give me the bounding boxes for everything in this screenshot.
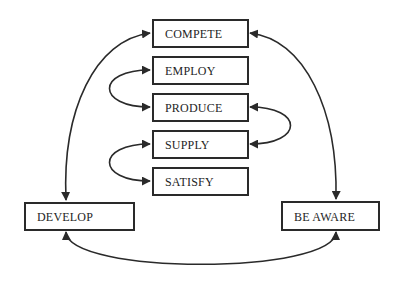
node-develop: DEVELOP — [24, 202, 135, 231]
edge-supply-satisfy — [110, 144, 151, 181]
edge-compete-be-aware — [250, 33, 336, 199]
edge-develop-be-aware — [66, 232, 336, 264]
diagram-canvas: COMPETE EMPLOY PRODUCE SUPPLY SATISFY DE… — [0, 0, 399, 282]
node-label: DEVELOP — [37, 210, 93, 225]
edge-compete-develop — [66, 33, 150, 200]
node-supply: SUPPLY — [152, 130, 249, 159]
node-label: PRODUCE — [165, 101, 222, 116]
node-label: SUPPLY — [165, 138, 210, 153]
node-employ: EMPLOY — [152, 56, 249, 85]
node-satisfy: SATISFY — [152, 167, 249, 196]
node-label: BE AWARE — [294, 210, 355, 225]
edge-produce-supply — [250, 107, 291, 144]
node-label: EMPLOY — [165, 64, 216, 79]
edge-employ-produce — [110, 70, 151, 107]
node-label: SATISFY — [165, 175, 214, 190]
node-label: COMPETE — [165, 27, 222, 42]
node-compete: COMPETE — [152, 19, 249, 48]
node-be-aware: BE AWARE — [281, 201, 380, 231]
node-produce: PRODUCE — [152, 93, 249, 122]
